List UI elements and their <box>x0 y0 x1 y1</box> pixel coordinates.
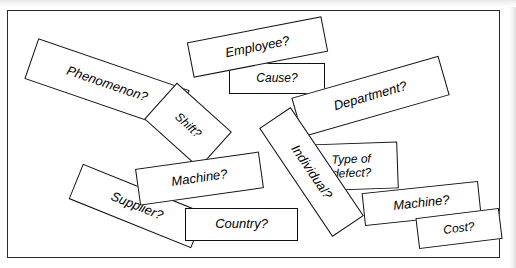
figure-canvas: Phenomenon?Employee?Cause?Department?Shi… <box>0 0 516 268</box>
figure-frame: Phenomenon?Employee?Cause?Department?Shi… <box>7 10 500 258</box>
card-label: Cost? <box>439 219 480 237</box>
card-label: Department? <box>329 78 413 115</box>
card-label: Employee? <box>220 33 294 61</box>
card-label: Country? <box>211 217 272 232</box>
card-country[interactable]: Country? <box>185 208 298 241</box>
scan-edge-shading-top <box>0 0 516 7</box>
card-label: Machine? <box>389 193 455 214</box>
card-label: Shift? <box>169 108 207 144</box>
card-label: Machine? <box>167 167 233 190</box>
card-label: Cause? <box>252 72 301 85</box>
card-machine-left[interactable]: Machine? <box>135 151 264 205</box>
card-label: Phenomenon? <box>61 63 153 107</box>
scan-edge-shading-right <box>509 0 516 268</box>
